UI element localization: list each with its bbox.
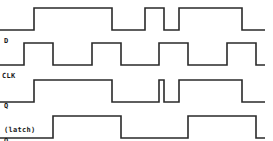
label-d: D — [4, 21, 13, 53]
label-clk: CLK — [2, 56, 16, 88]
timing-diagram — [0, 0, 273, 141]
label-q-ff: Q (FF) — [4, 121, 22, 141]
waveform-d — [0, 8, 265, 30]
waveform-q-ff — [0, 116, 265, 138]
label-q-latch-line-0: Q — [4, 102, 36, 110]
label-d-line-0: D — [4, 37, 13, 45]
label-q-ff-line-0: Q — [4, 137, 22, 141]
waveform-q-latch — [0, 80, 265, 102]
label-clk-line-0: CLK — [2, 72, 16, 80]
waveform-clk — [0, 43, 265, 65]
